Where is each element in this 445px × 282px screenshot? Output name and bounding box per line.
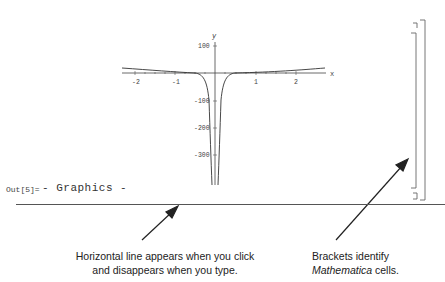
cell-insertion-line[interactable] [16, 204, 445, 205]
callout-text: Mathematica cells. [312, 263, 445, 277]
callout-horizontal-line: Horizontal line appears when you click a… [50, 249, 280, 277]
y-tick-label: 100 [198, 43, 210, 50]
x-tick-label: -1 [172, 79, 180, 86]
graphics-output[interactable]: - Graphics - [42, 182, 127, 194]
output-label: Out[5]= [6, 185, 40, 194]
y-tick-label: -300 [194, 152, 210, 159]
callout-brackets: Brackets identify Mathematica cells. [312, 249, 445, 277]
callout-text: Horizontal line appears when you click [50, 249, 280, 263]
y-tick-label: -100 [194, 98, 210, 105]
graphics-plot: -2 -1 1 2 100 -100 -200 -300 x y [0, 0, 445, 282]
x-tick-label: 2 [294, 79, 298, 86]
callout-text: and disappears when you type. [50, 263, 280, 277]
callout-text: Brackets identify [312, 249, 445, 263]
x-tick-label: -2 [132, 79, 140, 86]
x-axis-label: x [330, 70, 334, 78]
y-tick-label: -200 [194, 125, 210, 132]
cell-brackets [411, 20, 425, 200]
x-tick-label: 1 [254, 79, 258, 86]
callout-rest: cells. [372, 264, 399, 276]
callout-italic: Mathematica [312, 264, 372, 276]
y-axis-label: y [211, 32, 217, 40]
